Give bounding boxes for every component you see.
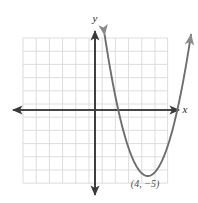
coordinate-plane: x y (4, −5) <box>0 0 198 203</box>
parabola-curve <box>105 35 191 176</box>
y-axis-label: y <box>92 12 98 24</box>
vertex-label: (4, −5) <box>131 178 160 190</box>
graph-figure: x y (4, −5) <box>0 0 198 203</box>
x-axis-label: x <box>182 103 188 115</box>
parabola-path <box>105 35 191 176</box>
